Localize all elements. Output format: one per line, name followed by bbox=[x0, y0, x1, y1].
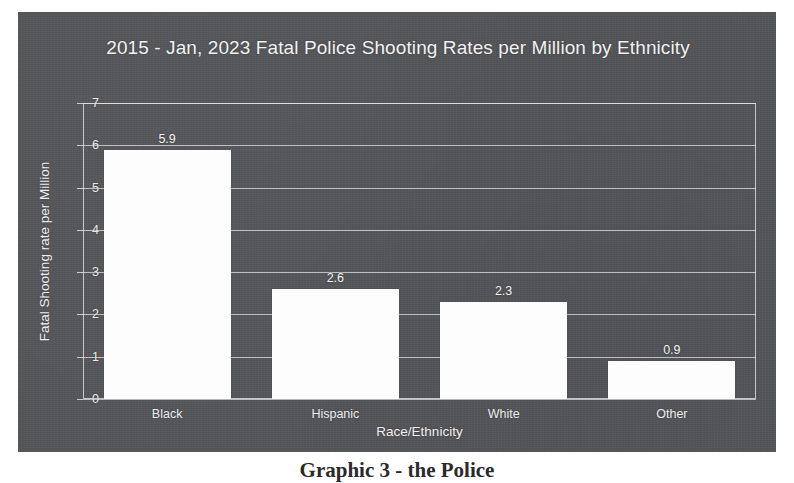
x-axis-label-other: Other bbox=[588, 407, 756, 421]
gridline bbox=[83, 103, 756, 104]
chart-title: 2015 - Jan, 2023 Fatal Police Shooting R… bbox=[78, 34, 718, 61]
y-axis-tick-label: 3 bbox=[71, 265, 99, 279]
bar-value-white: 2.3 bbox=[420, 284, 588, 298]
bar-value-other: 0.9 bbox=[588, 343, 756, 357]
y-axis-tick-label: 7 bbox=[71, 96, 99, 110]
y-axis-title: Fatal Shooting rate per Million bbox=[34, 103, 56, 399]
chart-panel: 2015 - Jan, 2023 Fatal Police Shooting R… bbox=[18, 12, 776, 452]
figure-caption: Graphic 3 - the Police bbox=[0, 458, 794, 483]
y-axis-tick-label: 5 bbox=[71, 181, 99, 195]
x-axis-title: Race/Ethnicity bbox=[83, 424, 756, 439]
bar-white bbox=[440, 302, 567, 399]
x-axis-label-hispanic: Hispanic bbox=[251, 407, 419, 421]
y-axis-tick-label: 1 bbox=[71, 350, 99, 364]
y-axis-tick-label: 4 bbox=[71, 223, 99, 237]
y-axis-tick-label: 0 bbox=[71, 392, 99, 406]
bar-value-hispanic: 2.6 bbox=[251, 271, 419, 285]
bar-other bbox=[608, 361, 735, 399]
bar-value-black: 5.9 bbox=[83, 132, 251, 146]
y-axis-title-text: Fatal Shooting rate per Million bbox=[38, 161, 53, 340]
x-axis-label-black: Black bbox=[83, 407, 251, 421]
gridline bbox=[83, 399, 756, 400]
x-axis-label-white: White bbox=[420, 407, 588, 421]
bar-hispanic bbox=[272, 289, 399, 399]
bar-black bbox=[104, 150, 231, 399]
y-axis-tick-label: 2 bbox=[71, 307, 99, 321]
